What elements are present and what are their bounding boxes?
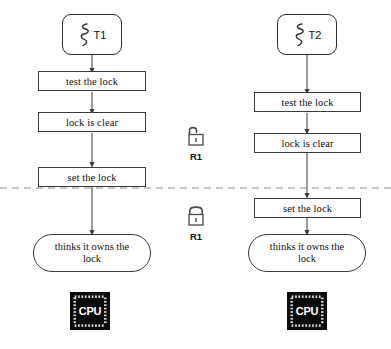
- padlock-open-icon: [185, 123, 207, 152]
- step-label: test the lock: [66, 76, 118, 87]
- lock-label-r1-open: R1: [190, 152, 202, 162]
- step-label: lock is clear: [66, 117, 118, 128]
- cpu-pins-icon: [73, 295, 107, 327]
- diagram-canvas: T1 test the lock lock is clear set the l…: [0, 0, 391, 349]
- step-test-the-lock-t1[interactable]: test the lock: [38, 71, 146, 91]
- cpu-chip-t1[interactable]: CPU: [70, 292, 110, 330]
- step-label: lock is clear: [281, 138, 333, 149]
- step-lock-is-clear-t2[interactable]: lock is clear: [254, 133, 361, 153]
- step-set-the-lock-t2[interactable]: set the lock: [254, 198, 361, 218]
- thread-squiggle-icon: [293, 22, 306, 48]
- terminal-label: thinks it owns the lock: [46, 241, 138, 266]
- cpu-pins-icon: [290, 295, 324, 327]
- lock-resource-r1-closed[interactable]: R1: [183, 203, 209, 242]
- padlock-closed-icon: [185, 203, 207, 232]
- thread-label-t1: T1: [94, 29, 107, 41]
- terminal-thinks-it-owns-the-lock-t1[interactable]: thinks it owns the lock: [33, 234, 151, 272]
- terminal-thinks-it-owns-the-lock-t2[interactable]: thinks it owns the lock: [248, 234, 366, 272]
- thread-squiggle-icon: [78, 22, 91, 48]
- step-set-the-lock-t1[interactable]: set the lock: [38, 167, 146, 187]
- step-lock-is-clear-t1[interactable]: lock is clear: [38, 112, 146, 132]
- step-test-the-lock-t2[interactable]: test the lock: [254, 92, 361, 112]
- cpu-chip-t2[interactable]: CPU: [287, 292, 327, 330]
- step-label: set the lock: [67, 172, 116, 183]
- step-label: set the lock: [283, 203, 332, 214]
- thread-node-t1[interactable]: T1: [62, 14, 122, 55]
- step-label: test the lock: [281, 97, 333, 108]
- lock-resource-r1-open[interactable]: R1: [183, 123, 209, 162]
- lock-label-r1-closed: R1: [190, 232, 202, 242]
- terminal-label: thinks it owns the lock: [261, 241, 353, 266]
- thread-node-t2[interactable]: T2: [277, 14, 337, 55]
- thread-label-t2: T2: [309, 29, 322, 41]
